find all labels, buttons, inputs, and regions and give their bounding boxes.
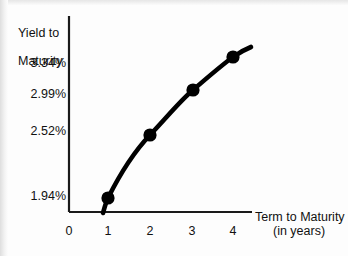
data-point-marker (186, 83, 199, 96)
data-point-marker (226, 50, 239, 63)
plot-area (0, 0, 348, 256)
yield-curve-chart: Yield to Maturity Term to Maturity (in y… (0, 0, 348, 256)
yield-curve-line (103, 47, 251, 213)
data-point-marker (143, 128, 156, 141)
data-point-marker (101, 191, 114, 204)
